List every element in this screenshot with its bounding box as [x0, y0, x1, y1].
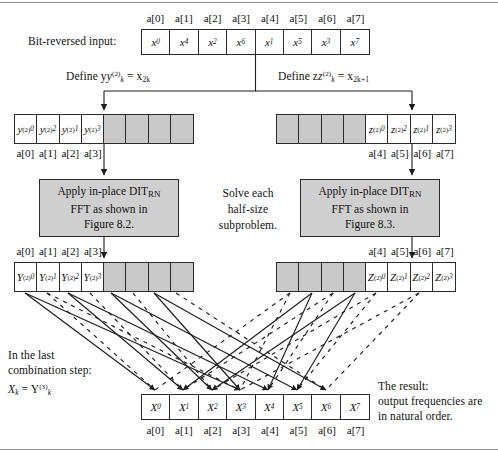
- cell-base: X: [321, 401, 328, 413]
- cell-superscript: (2): [374, 274, 382, 281]
- cell-subscript: 7: [355, 38, 359, 46]
- array-cell-shaded: [344, 263, 366, 291]
- index-label: a[6]: [411, 245, 434, 257]
- cell-subscript: 3: [98, 273, 102, 281]
- cell-superscript: (2): [418, 274, 426, 281]
- array-cell: x4: [170, 30, 198, 54]
- bit-reversed-input-label: Bit-reversed input:: [28, 35, 116, 48]
- array-cell: Y(2)1: [37, 263, 59, 291]
- index-label: a[3]: [227, 424, 256, 436]
- index-label: a[0]: [14, 147, 37, 159]
- index-label: a[1]: [37, 245, 60, 257]
- array-cell-shaded: [299, 115, 321, 143]
- array-cell: Z(2)3: [433, 263, 455, 291]
- array-cell: Z(2)0: [366, 263, 388, 291]
- cell-superscript: (2): [89, 126, 97, 133]
- array-cell-shaded: [149, 115, 171, 143]
- define-z-label: Define zz(2)k = x2k+1: [278, 68, 369, 86]
- index-row-bottom: a[0]a[1]a[2]a[3]a[4]a[5]a[6]a[7]: [141, 424, 370, 436]
- cell-subscript: 3: [327, 38, 331, 46]
- cell-subscript: 2: [426, 273, 430, 281]
- array-cell: z(2)3: [433, 115, 455, 143]
- array-cell: X6: [312, 395, 340, 419]
- cell-base: X: [350, 401, 357, 413]
- array-cell-shaded: [277, 263, 299, 291]
- array-cell: y(2)2: [37, 115, 59, 143]
- fft-box-line: Figure 8.3.: [345, 217, 395, 232]
- index-label: a[4]: [366, 245, 389, 257]
- array-cell: z(2)1: [411, 115, 433, 143]
- array-cell-shaded: [344, 115, 366, 143]
- array-cell-shaded: [171, 115, 193, 143]
- array-cell-shaded: [104, 263, 126, 291]
- index-label: a[7]: [341, 424, 370, 436]
- last-step-line-1: combination step:: [8, 363, 92, 378]
- array-cell: y(2)3: [82, 115, 104, 143]
- cell-subscript: 1: [186, 403, 190, 411]
- define-y-subscript: k: [121, 75, 124, 84]
- array-cell: y(2)1: [60, 115, 82, 143]
- cell-subscript: 4: [271, 403, 275, 411]
- array-cell: X0: [142, 395, 170, 419]
- index-label: a[2]: [198, 424, 227, 436]
- index-row-y-top: a[0]a[1]a[2]a[3]: [14, 147, 104, 159]
- fft-box-left[interactable]: Apply in-place DITRNFFT as shown inFigur…: [39, 179, 179, 237]
- cell-superscript: (2): [22, 126, 30, 133]
- cell-subscript: 3: [449, 273, 453, 281]
- array-cell: Z(2)2: [411, 263, 433, 291]
- cell-subscript: 3: [448, 125, 452, 133]
- index-label: a[1]: [170, 424, 199, 436]
- result-line-1: output frequencies are: [378, 394, 482, 409]
- cell-subscript: 6: [241, 38, 245, 46]
- array-cell: z(2)0: [366, 115, 388, 143]
- array-cell: X1: [170, 395, 198, 419]
- array-cell-shaded: [126, 263, 148, 291]
- solve-line-2: subproblem.: [205, 217, 291, 233]
- index-row-z-top: a[4]a[5]a[6]a[7]: [366, 147, 456, 159]
- array-cell: x5: [284, 30, 312, 54]
- cell-base: X: [207, 401, 214, 413]
- cell-superscript: (2): [90, 274, 98, 281]
- Z-result-array: Z(2)0Z(2)1Z(2)2Z(2)3: [276, 262, 456, 292]
- define-y-rhs-sub: 2k: [142, 75, 150, 84]
- cell-subscript: 1: [75, 125, 79, 133]
- array-cell-shaded: [126, 115, 148, 143]
- cell-subscript: 2: [403, 125, 407, 133]
- result-line-2: in natural order.: [378, 409, 482, 424]
- index-label: a[3]: [82, 245, 105, 257]
- array-cell: Y(2)2: [60, 263, 82, 291]
- cell-subscript: 1: [425, 125, 429, 133]
- index-label: a[7]: [434, 147, 457, 159]
- array-cell: x3: [312, 30, 340, 54]
- cell-base: X: [179, 401, 186, 413]
- array-cell: Z(2)1: [388, 263, 410, 291]
- index-label: a[7]: [434, 245, 457, 257]
- index-label: a[6]: [411, 147, 434, 159]
- array-cell-shaded: [322, 115, 344, 143]
- index-row-Y-top: a[0]a[1]a[2]a[3]: [14, 245, 104, 257]
- define-z-rhs: = x: [338, 70, 353, 82]
- array-cell-shaded: [322, 263, 344, 291]
- cell-superscript: (2): [417, 126, 425, 133]
- solve-line-1: half-size: [205, 201, 291, 217]
- fft-box-line: Apply in-place DITRN: [57, 184, 160, 202]
- cell-subscript: 3: [97, 125, 101, 133]
- cell-subscript: 1: [404, 273, 408, 281]
- cell-subscript: 1: [53, 273, 57, 281]
- fft-box-line: FFT as shown in: [332, 202, 409, 217]
- cell-superscript: (2): [395, 126, 403, 133]
- index-label: a[3]: [82, 147, 105, 159]
- index-label: a[5]: [284, 12, 313, 24]
- array-cell-shaded: [149, 263, 171, 291]
- cell-superscript: (2): [440, 126, 448, 133]
- array-cell: z(2)2: [388, 115, 410, 143]
- define-y-text: Define y: [66, 70, 107, 82]
- index-label: a[5]: [389, 147, 412, 159]
- fft-box-line: Apply in-place DITRN: [318, 184, 421, 202]
- eq-mid: = Y: [22, 383, 40, 395]
- result-note: The result: output frequencies are in na…: [378, 379, 482, 424]
- index-label: a[2]: [59, 245, 82, 257]
- fft-box-right[interactable]: Apply in-place DITRNFFT as shown inFigur…: [300, 179, 440, 237]
- array-cell: X3: [227, 395, 255, 419]
- array-cell: x0: [142, 30, 170, 54]
